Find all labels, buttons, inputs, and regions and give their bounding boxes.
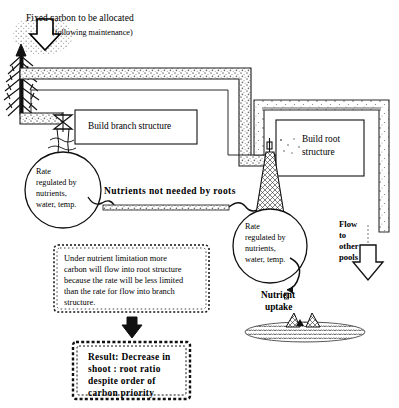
rate-balloon-left-line1: Rate	[36, 167, 51, 177]
nutrient-uptake-line1: Nutrient	[261, 290, 331, 301]
result-box-line1: Result: Decrease in	[88, 351, 171, 363]
page-subtitle: (following maintenance)	[52, 29, 133, 38]
result-box-line3: despite order of	[88, 375, 156, 387]
note-box-line3: because the rate will be less limited	[64, 276, 183, 287]
rate-balloon-left-line4: water, temp.	[36, 200, 76, 210]
page-title: Fixed carbon to be allocated	[26, 13, 134, 23]
branch-structure-label: Build branch structure	[88, 121, 171, 131]
rate-balloon-right-line3: nutrients,	[245, 244, 276, 254]
note-box-line4: than the rate for flow into branch	[64, 287, 175, 298]
note-box-line2: carbon will flow into root structure	[64, 265, 181, 276]
flow-other-pools-line3: other	[339, 241, 359, 252]
rate-balloon-right-line2: regulated by	[245, 233, 286, 243]
flow-other-pools-line1: Flow	[339, 219, 357, 230]
rate-balloon-right-line4: water, temp.	[245, 255, 285, 265]
flow-other-pools-line4: pools	[339, 252, 358, 263]
note-box-line5: structure.	[64, 298, 95, 309]
nutrient-uptake-line2: uptake	[265, 302, 335, 313]
result-box-line4: carbon priority	[88, 387, 154, 399]
rate-balloon-right-line1: Rate	[245, 222, 260, 232]
diagram-canvas: Fixed carbon to be allocated (following …	[0, 0, 399, 408]
down-arrow-icon	[122, 317, 142, 338]
conifer-tree-icon	[4, 44, 39, 116]
nutrient-return-pipe	[88, 197, 259, 211]
note-box-line1: Under nutrient limitation more	[64, 254, 167, 265]
rate-balloon-left-line2: regulated by	[36, 178, 77, 188]
root-structure-label-line1: Build root	[302, 134, 340, 144]
nutrient-return-pipe-label: Nutrients not needed by roots	[104, 186, 236, 196]
rate-balloon-left-line3: nutrients,	[36, 189, 67, 199]
result-box-line2: shoot : root ratio	[88, 363, 161, 375]
soil-layer-icon	[245, 322, 365, 342]
flow-other-pools-line2: to	[339, 230, 346, 241]
root-structure-label-line2: structure	[302, 147, 335, 157]
